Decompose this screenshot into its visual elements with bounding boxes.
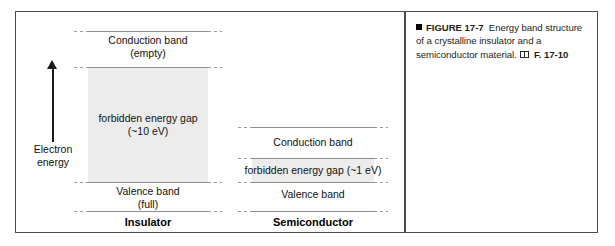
line-solid	[252, 211, 374, 212]
line-dash-right	[374, 158, 388, 159]
insulator-forbidden-gap-label-line1: forbidden energy gap	[74, 112, 222, 125]
energy-band-diagram: Electron energy Conduction band (empty) …	[16, 12, 404, 232]
semiconductor-conduction-band-label-line1: Conduction band	[238, 136, 388, 149]
insulator-conduction-band-label-line2: (empty)	[74, 47, 222, 60]
insulator-conduction-top-line	[74, 31, 222, 32]
line-solid	[252, 182, 374, 183]
line-dash-right	[208, 31, 222, 32]
insulator-forbidden-gap-label-line2: (~10 eV)	[74, 125, 222, 138]
line-dash-left	[74, 182, 88, 183]
line-dash-right	[374, 182, 388, 183]
line-solid	[88, 31, 208, 32]
square-bullet-icon	[416, 24, 422, 30]
line-dash-left	[238, 182, 252, 183]
semiconductor-valence-band-label: Valence band	[238, 188, 388, 201]
line-solid	[88, 211, 208, 212]
semiconductor-valence-top-line	[238, 182, 388, 183]
line-dash-right	[374, 211, 388, 212]
semiconductor-valence-bottom-line	[238, 211, 388, 212]
energy-axis-label: Electron energy	[16, 143, 90, 169]
semiconductor-forbidden-gap-label: forbidden energy gap (~1 eV)	[238, 164, 388, 177]
insulator-material-label: Insulator	[74, 216, 222, 228]
insulator-valence-band-label: Valence band (full)	[74, 185, 222, 211]
line-solid	[252, 127, 374, 128]
figure-caption-pane: FIGURE 17-7 Energy band structure of a c…	[405, 12, 597, 232]
insulator-valence-top-line	[74, 182, 222, 183]
figure-frame: Electron energy Conduction band (empty) …	[15, 11, 598, 233]
insulator-valence-bottom-line	[74, 211, 222, 212]
semiconductor-valence-band-label-line1: Valence band	[238, 188, 388, 201]
line-dash-right	[374, 127, 388, 128]
insulator-valence-band-label-line2: (full)	[74, 198, 222, 211]
energy-axis-label-line1: Electron	[16, 143, 90, 156]
line-dash-right	[208, 211, 222, 212]
energy-axis-label-line2: energy	[16, 156, 90, 169]
insulator-conduction-band-label-line1: Conduction band	[74, 34, 222, 47]
semiconductor-conduction-band-label: Conduction band	[238, 136, 388, 149]
line-dash-left	[74, 211, 88, 212]
energy-axis-line	[52, 67, 54, 142]
line-solid	[88, 182, 208, 183]
line-dash-left	[74, 31, 88, 32]
figure-caption: FIGURE 17-7 Energy band structure of a c…	[416, 21, 588, 61]
insulator-valence-band-label-line1: Valence band	[74, 185, 222, 198]
line-dash-left	[238, 127, 252, 128]
line-dash-right	[208, 67, 222, 68]
line-dash-left	[238, 211, 252, 212]
figure-caption-label: FIGURE 17-7	[426, 22, 484, 33]
semiconductor-material-label: Semiconductor	[238, 216, 388, 228]
line-dash-left	[74, 67, 88, 68]
semiconductor-conduction-top-line	[238, 127, 388, 128]
semiconductor-forbidden-gap-label-line1: forbidden energy gap (~1 eV)	[238, 164, 388, 177]
insulator-forbidden-gap-label: forbidden energy gap (~10 eV)	[74, 112, 222, 138]
figure-caption-crossref: F. 17-10	[534, 49, 568, 60]
line-dash-left	[238, 158, 252, 159]
line-dash-right	[208, 182, 222, 183]
insulator-conduction-band-label: Conduction band (empty)	[74, 34, 222, 60]
book-icon	[520, 51, 529, 58]
